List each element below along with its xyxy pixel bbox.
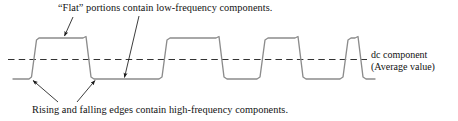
- waveform-figure: “Flat” portions contain low-frequency co…: [0, 0, 458, 121]
- leader-line-to-flat-bottom: [125, 16, 140, 78]
- pulse-train-waveform: [13, 37, 375, 80]
- dc-component-label-line1: dc component: [371, 49, 427, 60]
- leader-line-to-flat-top: [65, 17, 74, 36]
- dc-component-caption: dc component (Average value): [371, 50, 435, 73]
- flat-portions-caption: “Flat” portions contain low-frequency co…: [58, 3, 272, 14]
- leader-line-to-falling-edge: [77, 81, 95, 103]
- leader-line-to-rising-edge: [33, 81, 58, 103]
- edges-caption: Rising and falling edges contain high-fr…: [32, 105, 288, 116]
- dc-component-label-line2: (Average value): [371, 62, 435, 73]
